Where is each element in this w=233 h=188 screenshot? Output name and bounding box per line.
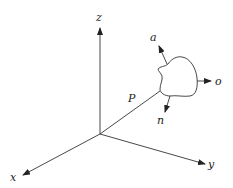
object-blob xyxy=(158,57,197,97)
y-axis-label: y xyxy=(207,158,215,171)
z-axis-label: z xyxy=(95,11,102,24)
normal-vector-label: n xyxy=(157,114,164,127)
approach-vector-label: a xyxy=(150,31,157,44)
position-vector-label: P xyxy=(127,92,136,105)
frame-diagram: z x y P a o n xyxy=(0,0,233,188)
y-axis xyxy=(100,134,205,164)
x-axis xyxy=(23,134,100,175)
approach-vector xyxy=(159,46,167,64)
orientation-vector-label: o xyxy=(215,75,222,88)
x-axis-label: x xyxy=(10,171,17,184)
normal-vector xyxy=(165,96,170,112)
